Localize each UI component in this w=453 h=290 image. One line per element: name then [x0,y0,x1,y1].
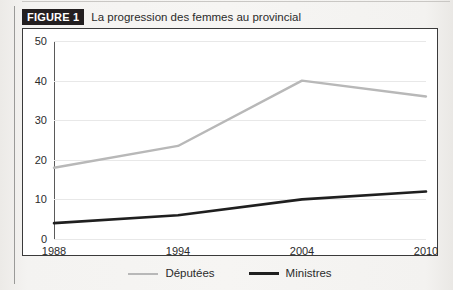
x-axis-tick-label: 1988 [42,246,66,257]
page-left-rule [14,6,15,284]
y-axis-tick-label: 0 [41,234,47,245]
y-axis-tick-label: 50 [35,36,47,47]
legend-item[interactable]: Députées [128,268,214,280]
y-axis-tick-label: 20 [35,154,47,165]
x-axis-tick-label: 2004 [290,246,314,257]
y-axis-tick-label: 30 [35,115,47,126]
plot-area: 01020304050 1988199420042010 [54,41,426,239]
series-line-dputes [54,81,426,168]
legend-label: Ministres [286,268,332,280]
figure-title-row: FIGURE 1 La progression des femmes au pr… [22,9,440,25]
line-swatch-icon [249,272,279,275]
series-lines [54,41,426,239]
figure-caption: La progression des femmes au provincial [84,9,301,25]
legend-label: Députées [165,268,214,280]
gridline [54,239,426,240]
x-axis-tick-label: 1994 [166,246,190,257]
x-axis-tick-label: 2010 [414,246,438,257]
chart-legend: DéputéesMinistres [22,268,438,280]
page-background: FIGURE 1 La progression des femmes au pr… [0,0,453,290]
y-axis-tick-label: 40 [35,75,47,86]
figure-number-badge: FIGURE 1 [22,9,84,25]
series-line-ministres [54,191,426,223]
page-top-rule [22,1,450,2]
line-swatch-icon [128,273,158,275]
chart-frame: 01020304050 1988199420042010 [22,28,438,256]
y-axis-tick-label: 10 [35,194,47,205]
legend-item[interactable]: Ministres [249,268,332,280]
